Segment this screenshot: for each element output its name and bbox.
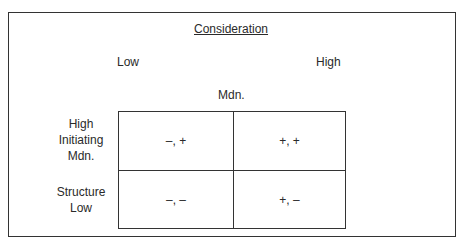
diagram-title: Consideration	[194, 22, 268, 36]
row-label-structure: Structure	[46, 184, 116, 200]
column-label-median: Mdn.	[218, 88, 245, 102]
cell-bottom-left: –, –	[119, 171, 234, 228]
row-label-bottom: Structure Low	[46, 184, 116, 216]
row-label-initiating: Initiating	[46, 132, 116, 148]
row-label-high: High	[46, 116, 116, 132]
column-label-low: Low	[117, 55, 139, 69]
quadrant-grid: –, + +, + –, – +, –	[118, 111, 346, 229]
cell-top-right: +, +	[234, 112, 345, 171]
column-label-high: High	[316, 55, 341, 69]
row-label-median: Mdn.	[46, 148, 116, 164]
row-label-top: High Initiating Mdn.	[46, 116, 116, 164]
cell-top-left: –, +	[119, 112, 234, 171]
cell-bottom-right: +, –	[234, 171, 345, 228]
row-label-low: Low	[46, 200, 116, 216]
